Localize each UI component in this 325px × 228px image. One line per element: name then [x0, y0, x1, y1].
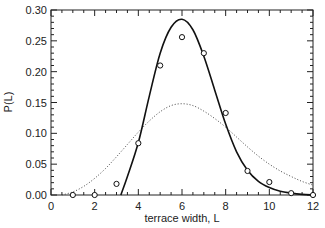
- x-tick-label: 12: [307, 200, 319, 212]
- y-tick-label: 0.00: [26, 189, 47, 201]
- x-tick-label: 0: [48, 200, 54, 212]
- data-point-marker: [201, 51, 206, 56]
- data-point-marker: [289, 191, 294, 196]
- y-tick-label: 0.30: [26, 4, 47, 16]
- data-point-marker: [245, 168, 250, 173]
- data-point-marker: [158, 63, 163, 68]
- y-tick-label: 0.05: [26, 158, 47, 170]
- y-axis-title: P(L): [2, 92, 14, 113]
- y-tick-label: 0.20: [26, 66, 47, 78]
- data-point-marker: [92, 192, 97, 197]
- x-tick-labels: 024681012: [48, 200, 319, 212]
- x-tick-label: 2: [92, 200, 98, 212]
- data-point-marker: [267, 179, 272, 184]
- data-point-marker: [179, 35, 184, 40]
- y-tick-label: 0.10: [26, 127, 47, 139]
- chart: 024681012 0.000.050.100.150.200.250.30 t…: [0, 0, 325, 228]
- solid-fit-curve: [121, 19, 313, 195]
- data-point-marker: [310, 192, 315, 197]
- x-axis-title: terrace width, L: [144, 212, 219, 224]
- data-point-marker: [223, 110, 228, 115]
- x-tick-label: 4: [135, 200, 141, 212]
- x-tick-label: 10: [263, 200, 275, 212]
- data-point-marker: [114, 181, 119, 186]
- x-tick-label: 6: [179, 200, 185, 212]
- dotted-fit-curve: [62, 104, 313, 195]
- y-tick-label: 0.15: [26, 97, 47, 109]
- data-point-marker: [136, 141, 141, 146]
- y-tick-label: 0.25: [26, 35, 47, 47]
- data-point-marker: [70, 192, 75, 197]
- x-tick-label: 8: [223, 200, 229, 212]
- data-points: [70, 35, 315, 198]
- y-tick-labels: 0.000.050.100.150.200.250.30: [26, 4, 47, 201]
